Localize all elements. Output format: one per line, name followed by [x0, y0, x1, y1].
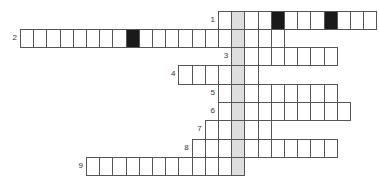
letter-cell[interactable] [271, 102, 285, 121]
letter-cell[interactable] [205, 139, 219, 158]
keyword-cell[interactable] [231, 47, 245, 66]
keyword-cell[interactable] [231, 65, 245, 84]
clue-number: 9 [69, 161, 83, 171]
letter-cell[interactable] [324, 139, 338, 158]
letter-cell[interactable] [337, 102, 351, 121]
letter-cell[interactable] [297, 102, 311, 121]
letter-cell[interactable] [284, 102, 298, 121]
letter-cell[interactable] [297, 139, 311, 158]
letter-cell[interactable] [112, 29, 126, 48]
letter-cell[interactable] [218, 65, 232, 84]
clue-number: 8 [175, 143, 189, 153]
letter-cell[interactable] [350, 11, 364, 30]
letter-cell[interactable] [152, 29, 166, 48]
letter-cell[interactable] [363, 11, 377, 30]
letter-cell[interactable] [258, 29, 272, 48]
letter-cell[interactable] [60, 29, 74, 48]
letter-cell[interactable] [271, 139, 285, 158]
letter-cell[interactable] [297, 11, 311, 30]
letter-cell[interactable] [192, 29, 206, 48]
letter-cell[interactable] [46, 29, 60, 48]
keyword-cell[interactable] [231, 11, 245, 30]
letter-cell[interactable] [165, 157, 179, 176]
letter-cell[interactable] [86, 157, 100, 176]
letter-cell[interactable] [244, 29, 258, 48]
letter-cell[interactable] [284, 47, 298, 66]
letter-cell[interactable] [284, 84, 298, 103]
keyword-cell[interactable] [231, 29, 245, 48]
letter-cell[interactable] [178, 65, 192, 84]
letter-cell[interactable] [33, 29, 47, 48]
keyword-cell[interactable] [231, 84, 245, 103]
letter-cell[interactable] [178, 29, 192, 48]
letter-cell[interactable] [310, 47, 324, 66]
letter-cell[interactable] [310, 84, 324, 103]
letter-cell[interactable] [337, 11, 351, 30]
letter-cell[interactable] [99, 29, 113, 48]
letter-cell[interactable] [218, 84, 232, 103]
keyword-cell[interactable] [231, 120, 245, 139]
letter-cell[interactable] [20, 29, 34, 48]
letter-cell[interactable] [284, 11, 298, 30]
letter-cell[interactable] [218, 157, 232, 176]
letter-cell[interactable] [126, 157, 140, 176]
letter-cell[interactable] [324, 84, 338, 103]
letter-cell[interactable] [205, 120, 219, 139]
letter-cell[interactable] [258, 102, 272, 121]
letter-cell[interactable] [310, 139, 324, 158]
letter-cell[interactable] [218, 139, 232, 158]
black-cell [271, 11, 285, 30]
letter-cell[interactable] [178, 157, 192, 176]
letter-cell[interactable] [139, 157, 153, 176]
clue-number: 2 [3, 33, 17, 43]
crossword-grid: 123456789 [0, 0, 379, 187]
letter-cell[interactable] [284, 139, 298, 158]
letter-cell[interactable] [258, 47, 272, 66]
letter-cell[interactable] [310, 11, 324, 30]
letter-cell[interactable] [271, 47, 285, 66]
letter-cell[interactable] [218, 102, 232, 121]
letter-cell[interactable] [73, 29, 87, 48]
letter-cell[interactable] [218, 11, 232, 30]
keyword-cell[interactable] [231, 139, 245, 158]
letter-cell[interactable] [205, 157, 219, 176]
letter-cell[interactable] [297, 84, 311, 103]
letter-cell[interactable] [258, 139, 272, 158]
letter-cell[interactable] [271, 84, 285, 103]
letter-cell[interactable] [99, 157, 113, 176]
letter-cell[interactable] [310, 102, 324, 121]
letter-cell[interactable] [205, 65, 219, 84]
letter-cell[interactable] [244, 84, 258, 103]
letter-cell[interactable] [324, 47, 338, 66]
keyword-cell[interactable] [231, 102, 245, 121]
letter-cell[interactable] [297, 47, 311, 66]
keyword-cell[interactable] [231, 157, 245, 176]
letter-cell[interactable] [271, 29, 285, 48]
letter-cell[interactable] [258, 11, 272, 30]
letter-cell[interactable] [244, 120, 258, 139]
letter-cell[interactable] [192, 157, 206, 176]
clue-number: 5 [201, 88, 215, 98]
letter-cell[interactable] [192, 65, 206, 84]
letter-cell[interactable] [258, 120, 272, 139]
clue-number: 6 [201, 106, 215, 116]
letter-cell[interactable] [244, 139, 258, 158]
letter-cell[interactable] [244, 102, 258, 121]
letter-cell[interactable] [244, 65, 258, 84]
clue-number: 4 [161, 69, 175, 79]
clue-number: 3 [214, 51, 228, 61]
letter-cell[interactable] [218, 120, 232, 139]
letter-cell[interactable] [165, 29, 179, 48]
clue-number: 1 [201, 15, 215, 25]
letter-cell[interactable] [244, 11, 258, 30]
letter-cell[interactable] [258, 84, 272, 103]
letter-cell[interactable] [244, 47, 258, 66]
letter-cell[interactable] [86, 29, 100, 48]
letter-cell[interactable] [205, 29, 219, 48]
letter-cell[interactable] [192, 139, 206, 158]
letter-cell[interactable] [218, 29, 232, 48]
letter-cell[interactable] [139, 29, 153, 48]
letter-cell[interactable] [152, 157, 166, 176]
letter-cell[interactable] [112, 157, 126, 176]
letter-cell[interactable] [324, 102, 338, 121]
